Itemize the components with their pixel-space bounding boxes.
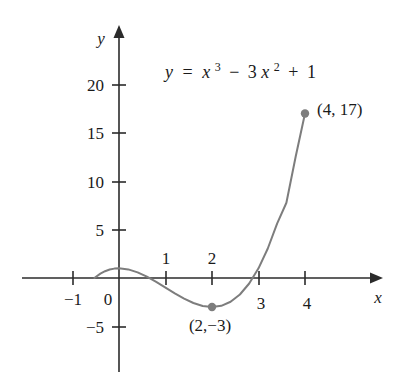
- x-axis-label: x: [373, 288, 382, 307]
- y-tick-label-15: 15: [87, 124, 104, 143]
- x-axis: [22, 273, 383, 284]
- equation-lhs: y: [163, 62, 173, 82]
- endpoint-dot: [301, 109, 309, 117]
- y-tick-label-20: 20: [87, 76, 104, 95]
- x-tick-label-2: 2: [208, 249, 217, 268]
- equation-text: y = x 3 − 3 x 2 + 1: [163, 60, 316, 82]
- x-tick-label-4: 4: [303, 294, 312, 313]
- x-axis-tick-labels: −1 0 1 2 3 4: [64, 249, 312, 313]
- x-tick-label-1: 1: [162, 249, 171, 268]
- x-tick-label-neg1: −1: [64, 290, 82, 309]
- equation-term2-base: x: [260, 62, 269, 82]
- endpoint-label: (4, 17): [317, 100, 362, 119]
- equation-plus: +: [288, 62, 298, 82]
- equation-annotation: y = x 3 − 3 x 2 + 1: [163, 60, 316, 82]
- y-axis: [114, 25, 125, 372]
- equation-constant: 1: [307, 62, 316, 82]
- equation-minus: −: [229, 62, 239, 82]
- equation-term2-exponent: 2: [274, 60, 280, 74]
- origin-label: 0: [104, 290, 113, 309]
- function-plot-svg: 20 15 10 5 −5 −1 0 1 2 3 4 y x y = x 3 −: [0, 0, 405, 387]
- x-axis-arrowhead: [370, 273, 383, 284]
- equation-equals: =: [183, 62, 193, 82]
- y-axis-label: y: [95, 29, 105, 48]
- y-tick-label-10: 10: [87, 173, 104, 192]
- graph-figure: 20 15 10 5 −5 −1 0 1 2 3 4 y x y = x 3 −: [0, 0, 405, 387]
- local-min-label: (2,−3): [189, 316, 231, 335]
- equation-term2-coefficient: 3: [248, 62, 257, 82]
- y-tick-label-neg5: −5: [86, 318, 104, 337]
- local-min-dot: [208, 303, 216, 311]
- y-tick-label-5: 5: [96, 221, 105, 240]
- y-axis-arrowhead: [114, 25, 125, 38]
- equation-term1-base: x: [201, 62, 210, 82]
- x-tick-label-3: 3: [257, 294, 266, 313]
- equation-term1-exponent: 3: [215, 60, 221, 74]
- y-axis-tick-labels: 20 15 10 5 −5: [86, 76, 104, 337]
